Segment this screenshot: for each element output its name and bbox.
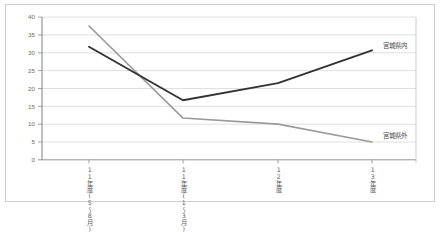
y-tick-label-25: 25 [28, 67, 35, 74]
x-axis-label-text-1: 11年度(1〜3月) [180, 166, 187, 208]
x-axis-label-cat-0: 11年度(5〜8月) [68, 166, 110, 208]
x-axis-ticks [89, 160, 372, 164]
series-label-miyagi-inside: 宮城県内 [383, 41, 407, 50]
y-tick-label-40: 40 [28, 13, 35, 20]
series-label-miyagi-outside: 宮城県外 [383, 131, 408, 140]
x-axis-label-cat-3: 13年度 [351, 166, 393, 196]
y-tick-label-10: 10 [28, 120, 35, 127]
x-axis-label-text-2: 12年度 [275, 166, 282, 192]
series-line-miyagi-inside [89, 47, 372, 101]
x-axis-label-cat-2: 12年度 [257, 166, 299, 196]
y-tick-label-15: 15 [28, 103, 35, 110]
y-tick-label-20: 20 [28, 85, 35, 92]
y-tick-label-30: 30 [28, 49, 35, 56]
y-tick-label-35: 35 [28, 31, 35, 38]
chart-plot-area: 40 35 30 25 20 15 10 5 0 宮城県内 宮城県外 11年度(… [6, 5, 436, 203]
y-axis-ticks [38, 17, 42, 160]
y-tick-label-5: 5 [32, 138, 36, 145]
chart-frame: 40 35 30 25 20 15 10 5 0 宮城県内 宮城県外 11年度(… [5, 4, 435, 202]
y-tick-label-0: 0 [32, 156, 36, 163]
x-axis-label-cat-1: 11年度(1〜3月) [162, 166, 204, 208]
x-axis-label-text-3: 13年度 [369, 166, 376, 192]
x-axis-label-text-0: 11年度(5〜8月) [86, 166, 93, 208]
